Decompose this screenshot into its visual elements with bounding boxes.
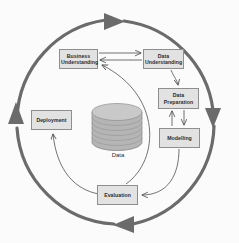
node-data-understanding-label: Data Understanding: [145, 53, 182, 66]
data-cylinder-label: Data: [92, 152, 144, 158]
crisp-dm-diagram: Business Understanding Data Understandin…: [0, 0, 239, 243]
node-data-preparation[interactable]: Data Preparation: [158, 88, 199, 109]
node-business-understanding-label: Business Understanding: [61, 53, 96, 66]
node-deployment-label: Deployment: [33, 117, 70, 124]
node-data-understanding[interactable]: Data Understanding: [143, 49, 184, 69]
node-data-preparation-label: Data Preparation: [160, 92, 197, 105]
node-modelling[interactable]: Modelling: [159, 128, 200, 148]
conn-du-to-dp: [171, 70, 178, 85]
node-evaluation-label: Evaluation: [99, 192, 136, 199]
node-modelling-label: Modelling: [161, 135, 198, 142]
outer-arc-top-left: [17, 20, 106, 118]
conn-mod-to-eval: [142, 149, 179, 195]
node-business-understanding[interactable]: Business Understanding: [59, 49, 98, 69]
outer-arrow-left-icon: [8, 102, 24, 124]
node-evaluation[interactable]: Evaluation: [97, 185, 138, 205]
outer-arrow-top-icon: [104, 13, 125, 30]
node-deployment[interactable]: Deployment: [31, 110, 72, 130]
data-cylinder-icon: [92, 104, 142, 151]
outer-arrow-bottom-icon: [113, 216, 134, 233]
outer-arrow-right-icon: [205, 108, 221, 128]
